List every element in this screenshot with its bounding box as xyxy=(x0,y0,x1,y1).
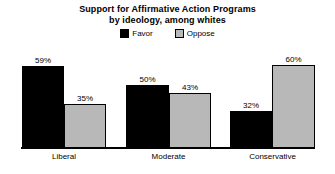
bar-value-moderate-oppose: 43% xyxy=(182,83,198,92)
x-axis-line xyxy=(21,147,315,149)
plot-area: 59% 35% 50% 43% xyxy=(22,50,315,148)
category-label-liberal: Liberal xyxy=(22,152,106,162)
bar-liberal-oppose xyxy=(64,104,106,148)
category-label-conservative: Conservative xyxy=(230,152,315,162)
bar-chart: Support for Affirmative Action Programs … xyxy=(0,0,335,174)
oppose-swatch-icon xyxy=(175,29,184,38)
legend-item-favor: Favor xyxy=(120,29,152,38)
chart-legend: Favor Oppose xyxy=(0,29,335,38)
bar-group-moderate: 50% 43% xyxy=(126,50,211,148)
chart-title-line-2: by ideology, among whites xyxy=(0,15,335,26)
bar-wrap-liberal-oppose: 35% xyxy=(64,50,106,148)
bar-wrap-conservative-favor: 32% xyxy=(230,50,272,148)
bar-wrap-moderate-oppose: 43% xyxy=(169,50,211,148)
bar-group-conservative: 32% 60% xyxy=(230,50,315,148)
bar-moderate-oppose xyxy=(169,93,211,148)
bar-group-liberal: 59% 35% xyxy=(22,50,106,148)
bar-liberal-favor xyxy=(22,66,64,148)
legend-item-oppose: Oppose xyxy=(175,29,215,38)
bar-value-liberal-favor: 59% xyxy=(35,56,51,65)
category-label-moderate: Moderate xyxy=(126,152,211,162)
bar-conservative-favor xyxy=(230,111,272,148)
bar-moderate-favor xyxy=(126,85,169,148)
bar-conservative-oppose xyxy=(272,65,315,148)
bar-value-conservative-favor: 32% xyxy=(243,101,259,110)
legend-label-oppose: Oppose xyxy=(187,29,215,38)
bar-wrap-liberal-favor: 59% xyxy=(22,50,64,148)
bar-value-moderate-favor: 50% xyxy=(139,75,155,84)
favor-swatch-icon xyxy=(120,29,129,38)
chart-title: Support for Affirmative Action Programs … xyxy=(0,4,335,25)
legend-label-favor: Favor xyxy=(132,29,152,38)
chart-title-line-1: Support for Affirmative Action Programs xyxy=(0,4,335,15)
bar-wrap-moderate-favor: 50% xyxy=(126,50,169,148)
bar-wrap-conservative-oppose: 60% xyxy=(272,50,315,148)
x-axis-category-labels: Liberal Moderate Conservative xyxy=(22,152,315,166)
bar-value-conservative-oppose: 60% xyxy=(285,55,301,64)
bar-value-liberal-oppose: 35% xyxy=(77,94,93,103)
